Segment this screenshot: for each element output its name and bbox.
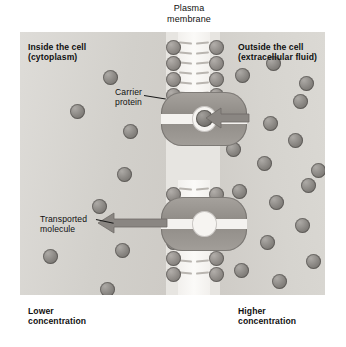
phospholipid-head: [209, 56, 224, 71]
molecule: [263, 116, 278, 131]
molecule: [117, 167, 132, 182]
molecule: [257, 156, 272, 171]
phospholipid-head: [209, 40, 224, 55]
lower-concentration-label: Lower concentration: [28, 306, 86, 327]
arrow-left-icon-upper: [206, 107, 250, 129]
molecule: [100, 282, 115, 295]
molecule: [234, 263, 249, 278]
higher-concentration-label: Higher concentration: [238, 306, 296, 327]
phospholipid-head: [209, 72, 224, 87]
molecule: [70, 104, 85, 119]
phospholipid-head: [166, 251, 181, 266]
cell-membrane-panel: Inside the cell (cytoplasm) Outside the …: [20, 32, 325, 295]
diagram-canvas: Plasma membrane: [0, 0, 346, 347]
molecule: [299, 76, 314, 91]
molecule: [272, 274, 287, 289]
molecule: [293, 94, 308, 109]
molecule: [123, 124, 138, 139]
plasma-membrane-label: Plasma membrane: [150, 3, 228, 25]
arrow-left-icon-lower: [98, 212, 168, 234]
molecule: [269, 195, 284, 210]
protein-binding-pocket-empty: [192, 211, 217, 237]
phospholipid-head: [166, 40, 181, 55]
molecule: [295, 218, 310, 233]
molecule: [235, 68, 250, 83]
transported-molecule-label: Transported molecule: [40, 214, 87, 235]
phospholipid-head: [166, 72, 181, 87]
cytoplasm-region: [20, 32, 166, 295]
inside-cell-label: Inside the cell (cytoplasm): [28, 42, 86, 63]
molecule: [311, 163, 325, 178]
molecule: [301, 178, 316, 193]
molecule: [260, 235, 275, 250]
molecule: [115, 243, 130, 258]
phospholipid-head: [209, 251, 224, 266]
carrier-protein-label: Carrier protein: [100, 87, 142, 108]
molecule: [306, 254, 321, 269]
molecule: [288, 133, 303, 148]
phospholipid-head: [209, 267, 224, 282]
carrier-protein-lower[interactable]: [161, 197, 247, 251]
phospholipid-head: [166, 56, 181, 71]
outside-cell-label: Outside the cell (extracellular fluid): [238, 42, 317, 63]
phospholipid-head: [166, 267, 181, 282]
molecule: [43, 249, 58, 264]
molecule: [103, 70, 118, 85]
